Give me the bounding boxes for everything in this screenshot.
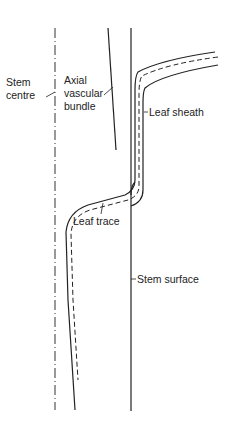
axial-vascular-bundle-line xyxy=(108,28,116,150)
leaf-sheath-label: Leaf sheath xyxy=(149,106,204,118)
leaf-sheath-inner-line xyxy=(131,65,218,206)
axial-bundle-label-1: Axial xyxy=(64,74,87,86)
stem-surface-label: Stem surface xyxy=(137,273,199,285)
axial-bundle-label-2: vascular xyxy=(64,87,104,99)
stem-centre-label-2: centre xyxy=(6,89,35,101)
axial-bundle-label-3: bundle xyxy=(64,100,96,112)
leaf-trace-label: Leaf trace xyxy=(73,215,120,227)
leaf-trace-leader xyxy=(101,203,103,214)
stem-centre-leader xyxy=(46,92,55,97)
stem-diagram: Stem centre Axial vascular bundle Leaf s… xyxy=(0,0,232,431)
stem-centre-label-1: Stem xyxy=(6,76,31,88)
